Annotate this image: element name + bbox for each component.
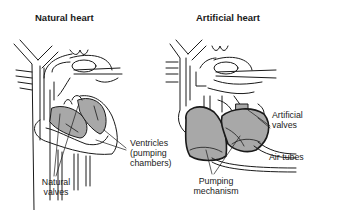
artificial-valves-label-line2: valves bbox=[272, 120, 303, 130]
artificial-valves-label-line1: Artificial bbox=[272, 110, 303, 120]
artificial-heart-title: Artificial heart bbox=[196, 12, 260, 23]
ventricles-label-line1: Ventricles bbox=[130, 138, 172, 148]
pumping-mechanism-label: Pumping mechanism bbox=[188, 176, 244, 196]
natural-heart-title: Natural heart bbox=[35, 12, 94, 23]
air-tubes-label: Air tubes bbox=[269, 152, 304, 162]
natural-valves-label-line1: Natural bbox=[36, 177, 76, 187]
artificial-valves-label: Artificial valves bbox=[272, 110, 303, 130]
ventricles-label-line3: chambers) bbox=[130, 158, 172, 168]
natural-valves-label-line2: valves bbox=[36, 187, 76, 197]
natural-valves-label: Natural valves bbox=[36, 177, 76, 197]
pumping-mechanism-label-line1: Pumping bbox=[188, 176, 244, 186]
pumping-mechanism-label-line2: mechanism bbox=[188, 186, 244, 196]
ventricles-label: Ventricles (pumping chambers) bbox=[130, 138, 172, 168]
ventricles-label-line2: (pumping bbox=[130, 148, 172, 158]
